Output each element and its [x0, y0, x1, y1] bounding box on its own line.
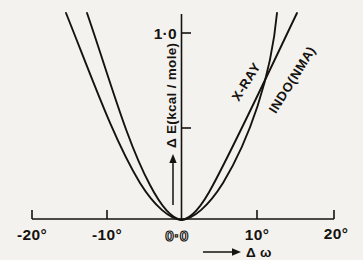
x-tick-label-0: 0·0	[165, 227, 188, 244]
x-axis-arrow-head	[232, 248, 241, 255]
x-tick-label--10: -10°	[92, 226, 122, 243]
energy-vs-omega-plot: -20° -10° 0·0 10° 20° 1·0 Δ ω Δ E(kcal /…	[0, 0, 363, 260]
x-axis	[32, 210, 334, 219]
x-tick-label-20: 20°	[324, 225, 348, 242]
curve-label-x-ray: X-RAY	[229, 60, 264, 104]
y-axis	[182, 14, 192, 220]
chart-figure: -20° -10° 0·0 10° 20° 1·0 Δ ω Δ E(kcal /…	[0, 0, 363, 260]
curve-label-indo-nma: INDO(NMA)	[266, 43, 319, 116]
y-axis-arrow-head	[169, 154, 176, 163]
y-tick-label-1.0: 1·0	[154, 25, 177, 42]
y-axis-title-group: Δ E(kcal / mole)	[164, 43, 179, 205]
x-tick-label--20: -20°	[17, 226, 47, 243]
x-axis-title: Δ ω	[246, 245, 272, 260]
curve-indo-nma	[87, 13, 297, 220]
x-tick-label-10: 10°	[245, 226, 269, 243]
x-axis-title-group: Δ ω	[203, 245, 272, 260]
y-axis-title: Δ E(kcal / mole)	[164, 43, 179, 148]
